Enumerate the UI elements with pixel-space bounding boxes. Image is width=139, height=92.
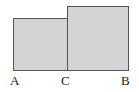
left-rectangle [13,18,68,71]
right-rectangle [67,6,129,71]
geometry-figure: A C B [0,0,139,92]
vertex-label-a: A [10,74,19,87]
vertex-label-c: C [61,74,70,87]
vertex-label-b: B [121,74,130,87]
